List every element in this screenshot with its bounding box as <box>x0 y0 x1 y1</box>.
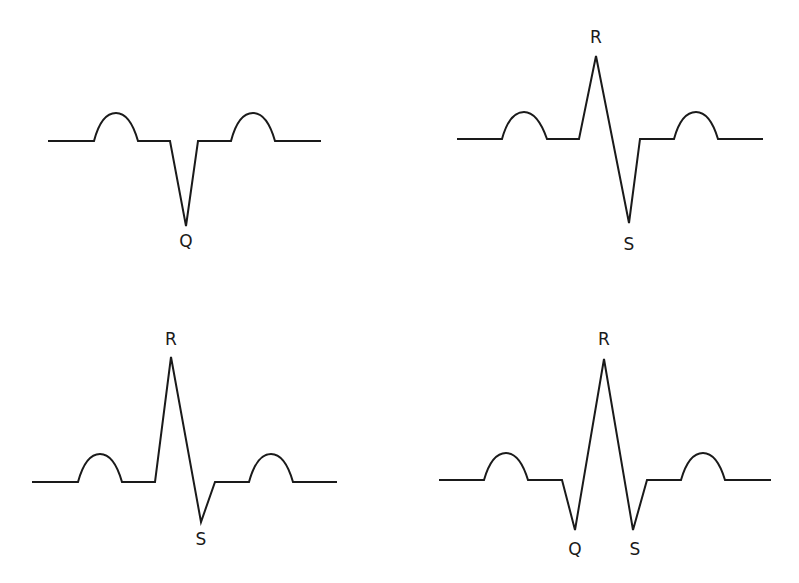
ecg-trace-qs <box>48 113 321 226</box>
label-r: R <box>165 329 177 349</box>
label-s: S <box>624 234 635 254</box>
ecg-trace-rs-small <box>32 357 337 522</box>
ecg-qrs-diagram: Q R S R S Q R S <box>0 0 799 583</box>
ecg-trace-qrs <box>439 359 771 530</box>
panel-bottom-right: Q R S <box>439 329 771 559</box>
label-r: R <box>598 329 610 349</box>
label-r: R <box>590 27 602 47</box>
ecg-trace-rs <box>457 56 763 223</box>
panel-bottom-left: R S <box>32 329 337 549</box>
panel-top-left: Q <box>48 113 321 251</box>
panel-top-right: R S <box>457 27 763 254</box>
label-s: S <box>630 539 641 559</box>
label-q: Q <box>568 539 581 559</box>
label-s: S <box>196 529 207 549</box>
label-q: Q <box>179 231 192 251</box>
